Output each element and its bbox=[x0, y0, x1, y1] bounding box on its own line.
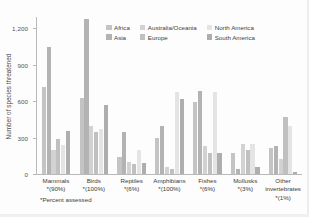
bar bbox=[56, 139, 60, 174]
bar bbox=[231, 153, 235, 174]
x-axis-group-percent: *(3%) bbox=[226, 185, 264, 193]
bar bbox=[236, 169, 240, 174]
legend-label: Australia/Oceania bbox=[148, 24, 197, 31]
x-axis-group-name: Mammals bbox=[43, 177, 70, 184]
bar bbox=[193, 102, 197, 174]
bar bbox=[80, 98, 84, 174]
bar bbox=[165, 167, 169, 174]
x-axis-line bbox=[36, 174, 302, 175]
legend-label: South America bbox=[215, 34, 255, 41]
bar bbox=[217, 153, 221, 174]
x-axis-group-name: Fishes bbox=[198, 177, 216, 184]
legend-entry[interactable]: Australia/Oceania bbox=[140, 24, 197, 31]
page-edge-bottom bbox=[0, 214, 309, 217]
y-axis-tick-label: 600 bbox=[17, 98, 28, 105]
bar bbox=[122, 132, 126, 174]
legend-entry[interactable]: South America bbox=[207, 34, 255, 41]
bars-layer bbox=[37, 17, 302, 174]
bar bbox=[47, 47, 51, 174]
legend-swatch-icon bbox=[106, 25, 112, 31]
x-axis-group-name: Reptiles bbox=[120, 177, 142, 184]
x-axis-group-percent: *(1%) bbox=[264, 194, 302, 202]
x-axis-group-label: Reptiles*(6%) bbox=[113, 177, 151, 202]
y-axis-tick-label: 1,200 bbox=[12, 25, 28, 32]
bar bbox=[66, 131, 70, 174]
y-axis-tick: 1,200 bbox=[33, 28, 36, 29]
bar bbox=[89, 126, 93, 174]
footnote: *Percent assessed bbox=[40, 196, 92, 203]
bar bbox=[142, 163, 146, 174]
bar-group bbox=[113, 17, 151, 174]
bar bbox=[208, 153, 212, 174]
legend: AfricaAsiaAustralia/OceaniaEuropeNorth A… bbox=[106, 24, 255, 41]
y-axis-tick-label: 0 bbox=[24, 171, 28, 178]
legend-column: Australia/OceaniaEurope bbox=[140, 24, 197, 41]
bar bbox=[61, 145, 65, 174]
chart-figure: Number of species threatened 03006009001… bbox=[0, 0, 309, 217]
x-axis-group-name: Amphibians bbox=[153, 177, 185, 184]
bar bbox=[274, 146, 278, 174]
bar bbox=[293, 172, 297, 174]
bar bbox=[255, 167, 259, 174]
bar bbox=[246, 150, 250, 174]
bar bbox=[175, 92, 179, 174]
bar bbox=[42, 87, 46, 174]
bar-group bbox=[37, 17, 75, 174]
legend-entry[interactable]: Africa bbox=[106, 24, 130, 31]
y-axis-tick-label: 300 bbox=[17, 134, 28, 141]
bar bbox=[198, 91, 202, 174]
legend-entry[interactable]: Europe bbox=[140, 34, 197, 41]
legend-entry[interactable]: Asia bbox=[106, 34, 130, 41]
x-axis-group-percent: *(90%) bbox=[37, 185, 75, 193]
x-axis-group-label: Fishes*(6%) bbox=[188, 177, 226, 202]
page-edge-right bbox=[307, 0, 309, 217]
legend-label: Europe bbox=[148, 34, 168, 41]
bar bbox=[250, 144, 254, 174]
legend-swatch-icon bbox=[140, 25, 146, 31]
y-axis-tick: 300 bbox=[33, 138, 36, 139]
bar bbox=[132, 164, 136, 174]
legend-column: North AmericaSouth America bbox=[207, 24, 255, 41]
x-axis-group-percent: *(100%) bbox=[75, 185, 113, 193]
bar bbox=[160, 126, 164, 174]
bar-group bbox=[188, 17, 226, 174]
x-axis-group-percent: *(6%) bbox=[188, 185, 226, 193]
bar bbox=[288, 126, 292, 174]
x-axis-group-name: Mollusks bbox=[233, 177, 257, 184]
bar bbox=[283, 117, 287, 174]
legend-swatch-icon bbox=[106, 34, 112, 40]
bar-group bbox=[75, 17, 113, 174]
y-axis-title: Number of species threatened bbox=[4, 17, 14, 175]
legend-label: North America bbox=[215, 24, 254, 31]
bar bbox=[180, 99, 184, 174]
bar-group bbox=[151, 17, 189, 174]
x-axis-group-label: Other invertebrates*(1%) bbox=[264, 177, 302, 202]
bar bbox=[127, 162, 131, 174]
legend-swatch-icon bbox=[140, 34, 146, 40]
y-axis-tick-label: 900 bbox=[17, 61, 28, 68]
x-axis-group-percent: *(6%) bbox=[113, 185, 151, 193]
y-axis-tick: 600 bbox=[33, 101, 36, 102]
bar bbox=[269, 148, 273, 174]
bar bbox=[137, 150, 141, 174]
legend-column: AfricaAsia bbox=[106, 24, 130, 41]
bar bbox=[203, 146, 207, 174]
x-axis-group-label: Mollusks*(3%) bbox=[226, 177, 264, 202]
bar bbox=[241, 144, 245, 174]
bar bbox=[51, 150, 55, 174]
plot-area: 03006009001,200 bbox=[36, 17, 302, 175]
y-axis-tick: 0 bbox=[33, 174, 36, 175]
bar bbox=[84, 19, 88, 174]
legend-label: Asia bbox=[114, 34, 126, 41]
bar bbox=[104, 105, 108, 174]
x-axis-group-name: Other invertebrates bbox=[265, 177, 301, 192]
bar-group bbox=[226, 17, 264, 174]
legend-label: Africa bbox=[114, 24, 130, 31]
legend-entry[interactable]: North America bbox=[207, 24, 255, 31]
bar bbox=[213, 92, 217, 174]
bar bbox=[279, 159, 283, 174]
bar bbox=[170, 169, 174, 174]
x-axis-group-name: Birds bbox=[87, 177, 101, 184]
x-axis-group-percent: *(100%) bbox=[151, 185, 189, 193]
legend-swatch-icon bbox=[207, 25, 213, 31]
